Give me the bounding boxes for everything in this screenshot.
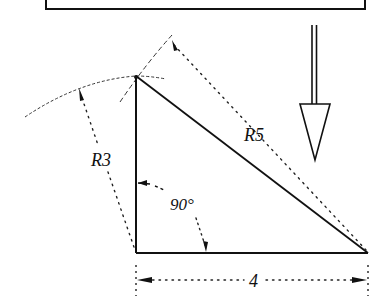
arrowhead-icon (172, 40, 178, 51)
arrowhead-icon (352, 277, 367, 283)
angle-label: 90° (170, 195, 194, 214)
right-triangle (134, 75, 368, 253)
r5-dimension (172, 40, 366, 250)
top-box (46, 0, 365, 9)
arrowhead-icon (203, 241, 208, 252)
arrowhead-icon (137, 277, 152, 283)
arrowhead-icon (138, 180, 147, 186)
base-label: 4 (249, 271, 258, 291)
arrowhead-icon (79, 88, 84, 101)
diagram-canvas: R5 R3 90° 4 (0, 0, 390, 299)
r5-label: R5 (243, 125, 264, 145)
r3-label: R3 (90, 150, 111, 170)
down-arrow-icon (300, 25, 330, 160)
r5-arc (120, 35, 172, 102)
right-angle-annotation (138, 180, 208, 252)
